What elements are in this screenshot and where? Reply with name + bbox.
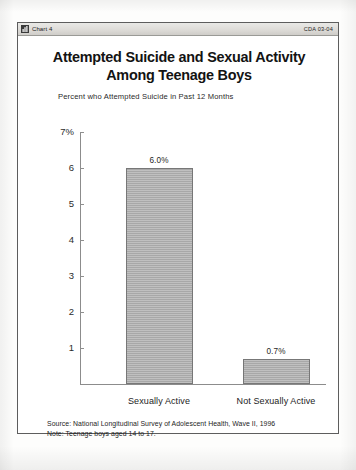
footnote-source: Source: National Longitudinal Survey of … <box>47 419 327 429</box>
chart-body: Attempted Suicide and Sexual Activity Am… <box>18 36 338 434</box>
y-axis-tick <box>80 168 84 169</box>
x-axis-category-label: Sexually Active <box>99 396 219 406</box>
bar-value-label: 0.7% <box>246 347 306 356</box>
bar-value-label: 6.0% <box>129 156 189 165</box>
y-axis-tick-label: 7% <box>38 127 74 137</box>
y-axis-tick-label: 6 <box>38 163 74 173</box>
y-axis-tick-label: 5 <box>38 199 74 209</box>
y-axis-tick-label: 4 <box>38 235 74 245</box>
y-axis-tick <box>80 240 84 241</box>
document-id-label: CDA 03-04 <box>304 25 335 33</box>
y-axis-tick <box>80 348 84 349</box>
bar <box>243 359 310 384</box>
bar <box>126 168 193 384</box>
window-titlebar[interactable]: Chart 4 CDA 03-04 <box>18 23 338 36</box>
y-axis-tick <box>80 276 84 277</box>
window-title: Chart 4 <box>32 25 52 33</box>
chart-footnote: Source: National Longitudinal Survey of … <box>47 419 327 438</box>
y-axis-tick <box>80 132 84 133</box>
x-axis-category-label: Not Sexually Active <box>216 396 336 406</box>
footnote-note: Note: Teenage boys aged 14 to 17. <box>47 429 327 439</box>
plot-area: 1234567% 6.0%Sexually Active0.7%Not Sexu… <box>18 36 340 434</box>
y-axis-tick-label: 2 <box>38 307 74 317</box>
y-axis-tick <box>80 204 84 205</box>
chart-window: Chart 4 CDA 03-04 Attempted Suicide and … <box>17 22 339 434</box>
y-axis-tick-label: 3 <box>38 271 74 281</box>
y-axis-tick-label: 1 <box>38 343 74 353</box>
x-axis-line <box>80 384 326 385</box>
y-axis-tick <box>80 312 84 313</box>
chart-icon <box>21 25 29 33</box>
